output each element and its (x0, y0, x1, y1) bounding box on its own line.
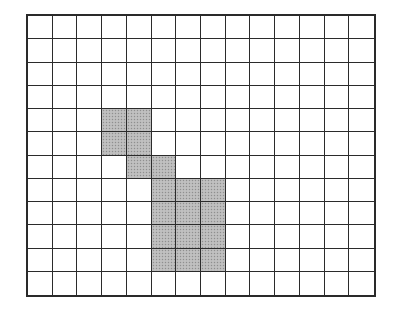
grid-cell (53, 249, 78, 272)
grid-cell (226, 39, 251, 62)
grid-cell (250, 39, 275, 62)
grid-cell (77, 63, 102, 86)
grid-cell (349, 16, 374, 39)
grid-cell (250, 249, 275, 272)
grid-cell (300, 86, 325, 109)
grid-cell (152, 132, 177, 155)
grid-cell (325, 86, 350, 109)
grid-cell (176, 132, 201, 155)
grid-cell (127, 16, 152, 39)
grid-cell (250, 16, 275, 39)
grid-cell (28, 156, 53, 179)
grid-cell (275, 86, 300, 109)
grid-cell (325, 132, 350, 155)
shaded-cell (102, 109, 127, 132)
grid-cell (53, 202, 78, 225)
grid-cell (201, 132, 226, 155)
grid-cell (201, 156, 226, 179)
grid-cell (275, 39, 300, 62)
grid-cell (250, 225, 275, 248)
grid-cell (325, 109, 350, 132)
grid-cell (201, 63, 226, 86)
grid-cell (53, 132, 78, 155)
grid-cell (226, 109, 251, 132)
grid-diagram (26, 14, 376, 297)
grid-cell (226, 225, 251, 248)
grid-cell (53, 63, 78, 86)
shaded-cell (102, 132, 127, 155)
grid-cell (300, 225, 325, 248)
grid-cell (250, 132, 275, 155)
grid-cell (127, 39, 152, 62)
grid-cell (53, 39, 78, 62)
grid-cell (300, 156, 325, 179)
shaded-cell (176, 249, 201, 272)
grid-cell (349, 179, 374, 202)
grid-cell (28, 16, 53, 39)
grid-cell (226, 16, 251, 39)
grid-cell (176, 109, 201, 132)
grid-cell (275, 179, 300, 202)
grid-cell (28, 132, 53, 155)
shaded-cell (152, 179, 177, 202)
grid-cell (127, 249, 152, 272)
grid-cell (250, 202, 275, 225)
grid-cell (77, 132, 102, 155)
shaded-cell (201, 179, 226, 202)
grid-cell (127, 272, 152, 295)
grid-cell (300, 109, 325, 132)
grid-cell (349, 202, 374, 225)
grid-cell (250, 109, 275, 132)
grid-cell (77, 39, 102, 62)
grid-cell (300, 179, 325, 202)
grid-cell (127, 225, 152, 248)
grid-cell (28, 86, 53, 109)
shaded-cell (127, 156, 152, 179)
grid-cell (176, 156, 201, 179)
grid-cell (300, 16, 325, 39)
grid-cell (102, 16, 127, 39)
grid-cell (226, 179, 251, 202)
grid-cell (53, 156, 78, 179)
grid-cell (226, 249, 251, 272)
grid-cell (300, 202, 325, 225)
grid-cell (53, 109, 78, 132)
grid-cell (176, 16, 201, 39)
grid-cell (102, 63, 127, 86)
shaded-cell (201, 225, 226, 248)
grid-cell (102, 202, 127, 225)
grid-cell (127, 63, 152, 86)
grid-cell (77, 156, 102, 179)
grid-cell (349, 225, 374, 248)
grid-cell (28, 109, 53, 132)
grid-cell (201, 272, 226, 295)
grid-cell (28, 249, 53, 272)
grid-cell (275, 202, 300, 225)
grid-cell (102, 39, 127, 62)
grid-cell (28, 179, 53, 202)
grid-cell (275, 156, 300, 179)
grid-cell (53, 225, 78, 248)
grid-cell (77, 202, 102, 225)
shaded-cell (152, 249, 177, 272)
grid-cell (53, 179, 78, 202)
grid-cell (127, 202, 152, 225)
grid-cell (250, 63, 275, 86)
grid-cell (226, 86, 251, 109)
shaded-cell (201, 249, 226, 272)
grid-cell (226, 132, 251, 155)
grid-cell (300, 63, 325, 86)
shaded-cell (201, 202, 226, 225)
grid-cell (53, 272, 78, 295)
grid-cell (102, 156, 127, 179)
grid-cell (275, 132, 300, 155)
grid-cells (28, 16, 374, 295)
grid-cell (102, 272, 127, 295)
grid-cell (102, 249, 127, 272)
grid-cell (176, 272, 201, 295)
shaded-cell (176, 225, 201, 248)
grid-cell (300, 272, 325, 295)
grid-cell (325, 202, 350, 225)
grid-cell (77, 16, 102, 39)
shaded-cell (152, 156, 177, 179)
